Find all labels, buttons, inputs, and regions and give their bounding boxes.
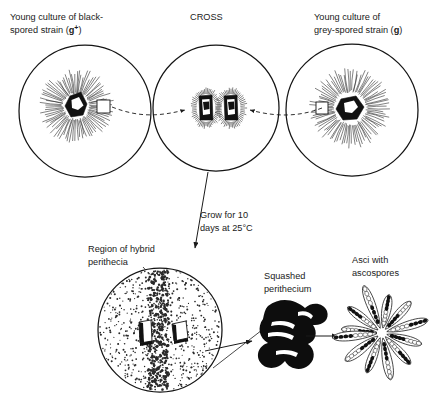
left-culture-label-suffix: )	[78, 25, 81, 35]
right-culture-label-line2: grey-spored strain (g)	[314, 25, 402, 35]
asci-label-line2: ascospores	[352, 268, 399, 278]
asci-label-line1: Asci with	[352, 255, 388, 265]
hybrid-region-label-line1: Region of hybrid	[88, 244, 155, 254]
ascus-rosette-icon	[333, 286, 429, 380]
squashed-perithecium-icon	[258, 300, 328, 369]
incubation-label-line2: days at 25°C	[200, 223, 253, 233]
squashed-label-line2: perithecium	[264, 284, 312, 294]
right-culture-label-line1: Young culture of	[314, 12, 381, 22]
left-culture-label-line2: spored strain (g+)	[10, 24, 82, 36]
diagram-root: Young culture of black- spored strain (g…	[0, 0, 436, 408]
squashed-label-line1: Squashed	[264, 271, 305, 281]
cross-label: CROSS	[190, 12, 223, 22]
bottom-block-left	[139, 320, 152, 346]
left-petri-dish	[19, 45, 151, 177]
right-culture-label-suffix: )	[399, 25, 402, 35]
left-culture-label-line1: Young culture of black-	[10, 12, 103, 22]
incubation-label-line1: Grow for 10	[200, 210, 248, 220]
left-dish-outline	[19, 45, 151, 177]
left-transfer-block	[97, 100, 110, 113]
bottom-petri-dish	[98, 268, 222, 392]
left-culture-label-prefix: spored strain (	[10, 25, 69, 35]
bottom-block-right	[172, 321, 188, 344]
right-petri-dish	[286, 44, 418, 176]
hybrid-region-label-line2: perithecia	[88, 257, 129, 267]
right-culture-label-prefix: grey-spored strain (	[314, 25, 394, 35]
center-petri-dish	[153, 45, 279, 171]
fungal-cross-figure: Young culture of black- spored strain (g…	[0, 0, 436, 408]
